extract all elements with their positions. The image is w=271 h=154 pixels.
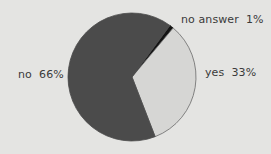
label-yes: yes 33%	[205, 67, 256, 79]
pie-chart: no answer 1% yes 33% no 66%	[0, 0, 271, 154]
label-no: no 66%	[18, 69, 64, 81]
label-no-answer: no answer 1%	[181, 14, 264, 26]
